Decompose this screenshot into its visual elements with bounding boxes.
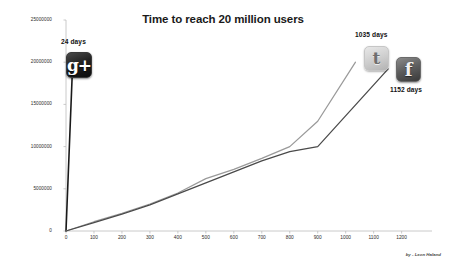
- annotation-google-plus: 24 days: [61, 38, 86, 45]
- twitter-glyph: t: [373, 50, 381, 67]
- x-tick-label: 200: [107, 235, 137, 240]
- credit-text: by - Leon Håland: [406, 252, 441, 257]
- x-tick-label: 700: [247, 235, 277, 240]
- facebook-glyph: f: [405, 61, 413, 79]
- y-tick-label: 5000000: [6, 186, 52, 191]
- google-plus-icon: g+: [66, 52, 92, 78]
- x-tick-label: 500: [191, 235, 221, 240]
- chart-container: Time to reach 20 million users 050000001…: [0, 0, 449, 266]
- x-tick-label: 800: [275, 235, 305, 240]
- y-tick-label: 25000000: [6, 17, 52, 22]
- x-tick-label: 1000: [331, 235, 361, 240]
- x-tick-label: 400: [163, 235, 193, 240]
- y-tick-label: 15000000: [6, 101, 52, 106]
- series-line-facebook: [66, 69, 388, 231]
- x-tick-label: 600: [219, 235, 249, 240]
- series-line-twitter: [66, 62, 355, 231]
- x-tick-label: 100: [79, 235, 109, 240]
- google-plus-glyph: g+: [67, 57, 91, 74]
- x-tick-label: 300: [135, 235, 165, 240]
- y-tick-label: 10000000: [6, 144, 52, 149]
- x-tick-label: 1200: [387, 235, 417, 240]
- twitter-icon: t: [364, 46, 389, 71]
- x-tick-label: 0: [51, 235, 81, 240]
- series-line-google-: [66, 62, 73, 231]
- x-tick-label: 900: [303, 235, 333, 240]
- annotation-facebook: 1152 days: [390, 86, 422, 93]
- x-tick-label: 1100: [359, 235, 389, 240]
- y-axis-tick-labels: 0500000010000000150000002000000025000000: [0, 0, 52, 266]
- series-lines: [66, 62, 388, 231]
- facebook-icon: f: [396, 57, 421, 82]
- y-tick-label: 20000000: [6, 59, 52, 64]
- annotation-twitter: 1035 days: [355, 31, 387, 38]
- y-tick-label: 0: [6, 228, 52, 233]
